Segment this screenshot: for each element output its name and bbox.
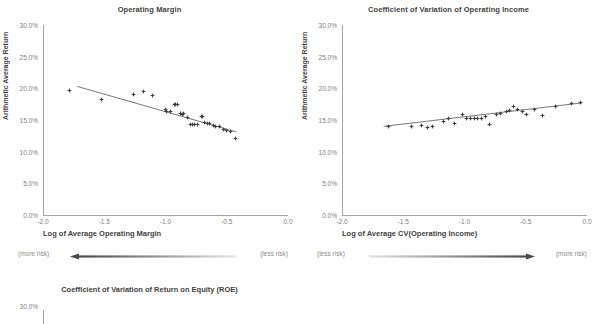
data-point — [67, 88, 72, 93]
data-point — [452, 121, 457, 126]
x-tick-label: -0.5 — [212, 218, 242, 225]
data-point — [175, 102, 180, 107]
x-tick-label: -1.5 — [89, 218, 119, 225]
data-point — [200, 114, 205, 119]
data-point — [233, 136, 238, 141]
x-axis-label: Log of Average CV(Operating Income) — [342, 229, 477, 238]
plot-area: 0.0% 5.0% 10.0% 15.0% 20.0% 25.0% 30.0% … — [342, 25, 587, 215]
data-point — [409, 124, 414, 129]
data-point — [168, 109, 173, 114]
risk-label-left: (more risk) — [18, 250, 49, 257]
chart-panel-cv-roe: Coefficient of Variation of Return on Eq… — [0, 270, 299, 324]
risk-label-right: (more risk) — [556, 250, 587, 257]
risk-gradient-row: (more risk) (less risk) — [18, 248, 288, 262]
chart-title: Coefficient of Variation of Return on Eq… — [0, 285, 299, 294]
data-point — [553, 104, 558, 109]
y-tick-label: 15.0% — [2, 117, 38, 124]
x-tick-label: -2.0 — [327, 218, 357, 225]
y-tick-label: 30.0% — [2, 303, 38, 310]
y-tick-label: 20.0% — [301, 85, 337, 92]
data-point — [419, 123, 424, 128]
chart-panel-cv-operating-income: Coefficient of Variation of Operating In… — [299, 0, 598, 324]
risk-gradient-row: (less risk) (more risk) — [317, 248, 587, 262]
chart-title: Coefficient of Variation of Operating In… — [299, 5, 598, 14]
data-point — [430, 124, 435, 129]
y-tick-label: 10.0% — [301, 148, 337, 155]
data-point — [131, 92, 136, 97]
data-point — [569, 101, 574, 106]
y-tick-label: 30.0% — [301, 22, 337, 29]
risk-label-left: (less risk) — [317, 250, 345, 257]
y-tick-label: 30.0% — [2, 22, 38, 29]
y-axis-label: Arithmetic Average Return — [301, 32, 308, 120]
x-tick-label: -1.0 — [450, 218, 480, 225]
x-axis-label: Log of Average Operating Margin — [43, 229, 161, 238]
data-point — [446, 116, 451, 121]
y-tick-label: 25.0% — [301, 53, 337, 60]
x-tick-label: -1.5 — [388, 218, 418, 225]
y-tick-label: 10.0% — [2, 148, 38, 155]
x-tick-label: -1.0 — [151, 218, 181, 225]
y-tick-label: 15.0% — [301, 117, 337, 124]
data-point — [228, 129, 233, 134]
data-point — [487, 122, 492, 127]
x-tick-label: -2.0 — [28, 218, 58, 225]
data-point — [507, 108, 512, 113]
x-axis-line — [43, 215, 288, 216]
y-tick-label: 20.0% — [2, 85, 38, 92]
y-tick-label: 25.0% — [2, 53, 38, 60]
trend-line — [43, 25, 288, 215]
y-tick-label: 5.0% — [301, 180, 337, 187]
data-point — [185, 115, 190, 120]
data-point — [540, 113, 545, 118]
plot-area: 0.0% 5.0% 10.0% 15.0% 20.0% 25.0% 30.0% … — [43, 25, 288, 215]
data-point — [141, 89, 146, 94]
y-axis-label: Arithmetic Average Return — [2, 32, 9, 120]
data-point — [498, 111, 503, 116]
data-point — [578, 100, 583, 105]
x-axis-line — [342, 215, 587, 216]
data-point — [483, 114, 488, 119]
y-axis-line — [43, 310, 44, 324]
x-tick-label: 0.0 — [572, 218, 598, 225]
data-point — [524, 112, 529, 117]
chart-title: Operating Margin — [0, 5, 299, 14]
risk-arrow-right — [369, 253, 535, 260]
y-tick-label: 5.0% — [2, 180, 38, 187]
risk-label-right: (less risk) — [260, 250, 288, 257]
risk-arrow-left — [70, 253, 236, 260]
x-tick-label: -0.5 — [511, 218, 541, 225]
data-point — [386, 124, 391, 129]
data-point — [99, 97, 104, 102]
data-point — [195, 122, 200, 127]
data-point — [150, 93, 155, 98]
data-point — [532, 107, 537, 112]
